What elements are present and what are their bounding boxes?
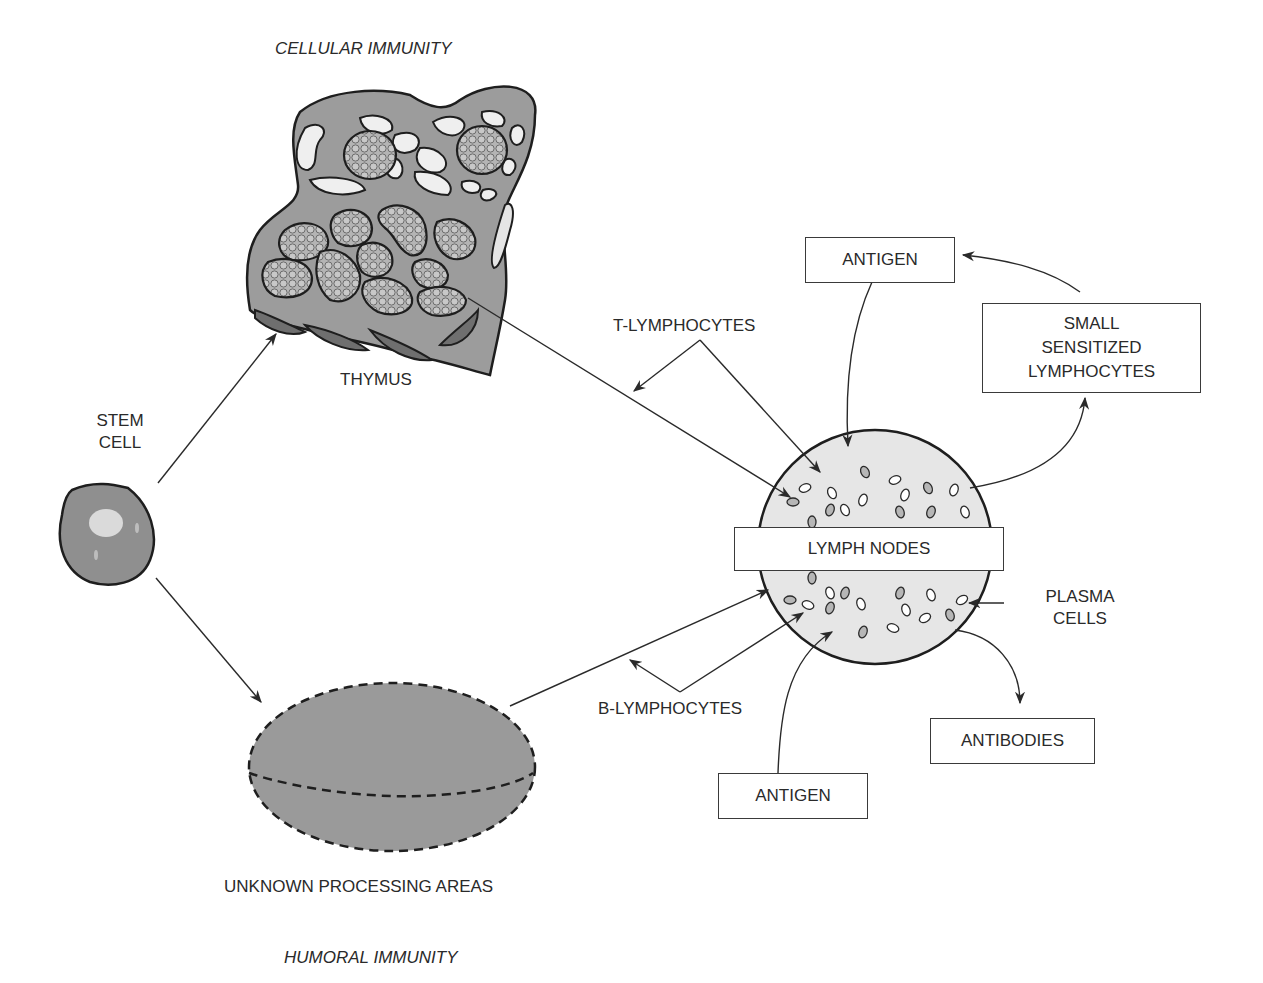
stem-cell-label: STEM CELL xyxy=(80,410,160,454)
cellular-immunity-title: CELLULAR IMMUNITY xyxy=(275,38,452,60)
unknown-processing-areas-shape xyxy=(249,683,535,851)
unknown-processing-areas-label: UNKNOWN PROCESSING AREAS xyxy=(224,876,493,898)
small-sensitized-lymphocytes-box: SMALL SENSITIZED LYMPHOCYTES xyxy=(982,303,1201,393)
sensitized-line1: SMALL xyxy=(1064,312,1120,336)
b-lymphocytes-label: B-LYMPHOCYTES xyxy=(598,698,742,720)
stem-cell-label-line2: CELL xyxy=(80,432,160,454)
sensitized-line3: LYMPHOCYTES xyxy=(1028,360,1155,384)
plasma-cells-label: PLASMA CELLS xyxy=(1035,586,1125,630)
sensitized-line2: SENSITIZED xyxy=(1041,336,1141,360)
t-lymphocytes-label: T-LYMPHOCYTES xyxy=(613,315,755,337)
antigen-top-box: ANTIGEN xyxy=(805,237,955,283)
antigen-bottom-box: ANTIGEN xyxy=(718,773,868,819)
immune-system-diagram xyxy=(0,0,1263,983)
stem-cell-icon xyxy=(60,484,154,585)
lymph-nodes-box: LYMPH NODES xyxy=(734,527,1004,571)
thymus-illustration xyxy=(247,86,535,375)
plasma-cells-label-line1: PLASMA xyxy=(1035,586,1125,608)
stem-cell-label-line1: STEM xyxy=(80,410,160,432)
plasma-cells-label-line2: CELLS xyxy=(1035,608,1125,630)
antibodies-box: ANTIBODIES xyxy=(930,718,1095,764)
thymus-label: THYMUS xyxy=(340,369,412,391)
humoral-immunity-title: HUMORAL IMMUNITY xyxy=(284,947,457,969)
